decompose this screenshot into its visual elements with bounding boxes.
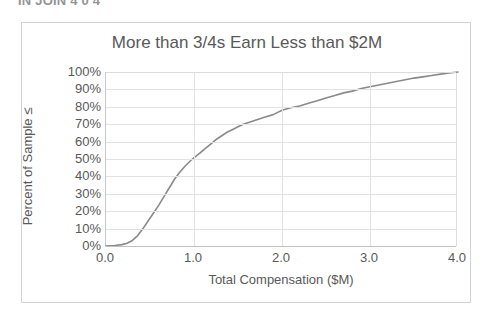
gridline-horizontal [106, 229, 456, 230]
plot-area [105, 72, 457, 246]
x-axis-title: Total Compensation ($M) [105, 272, 457, 287]
gridline-horizontal [106, 246, 456, 247]
gridline-vertical [194, 72, 195, 246]
gridline-vertical [282, 72, 283, 246]
x-axis-tick-label: 3.0 [339, 250, 399, 265]
y-axis-tick-label: 60% [53, 135, 101, 148]
gridline-vertical [370, 72, 371, 246]
y-axis-tick-label: 80% [53, 100, 101, 113]
x-axis-tick-label: 1.0 [163, 250, 223, 265]
y-axis-title: Percent of Sample ≤ [20, 77, 35, 257]
gridline-horizontal [106, 142, 456, 143]
chart-screenshot: IN JOIN 4 0 4 More than 3/4s Earn Less t… [0, 0, 498, 326]
y-axis-tick-label: 90% [53, 82, 101, 95]
y-axis-tick-label: 20% [53, 204, 101, 217]
gridline-horizontal [106, 124, 456, 125]
y-axis-tick-label: 10% [53, 222, 101, 235]
y-axis-tick-label: 50% [53, 152, 101, 165]
gridline-horizontal [106, 159, 456, 160]
gridline-horizontal [106, 211, 456, 212]
x-axis-tick-label: 0.0 [75, 250, 135, 265]
gridline-horizontal [106, 176, 456, 177]
y-axis-tick-labels: 0%10%20%30%40%50%60%70%80%90%100% [47, 0, 101, 326]
gridline-horizontal [106, 194, 456, 195]
x-axis-tick-label: 4.0 [427, 250, 487, 265]
y-axis-tick-label: 30% [53, 187, 101, 200]
y-axis-tick-label: 100% [53, 65, 101, 78]
x-axis-tick-label: 2.0 [251, 250, 311, 265]
y-axis-tick-label: 40% [53, 169, 101, 182]
y-axis-tick-label: 70% [53, 117, 101, 130]
gridline-horizontal [106, 107, 456, 108]
gridline-horizontal [106, 72, 456, 73]
gridline-horizontal [106, 89, 456, 90]
